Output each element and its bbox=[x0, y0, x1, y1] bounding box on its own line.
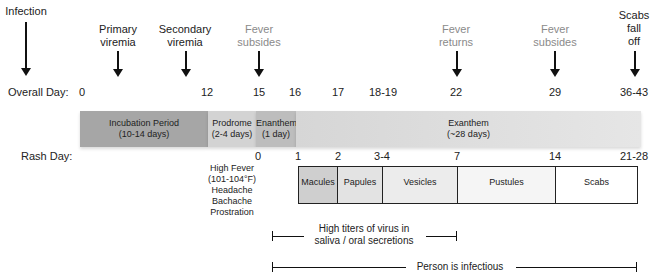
infectious-label: Person is infectious bbox=[417, 261, 504, 273]
event-label: returns bbox=[439, 36, 473, 49]
phase-duration: (1 day) bbox=[256, 129, 296, 140]
event-infection: Infection bbox=[5, 5, 47, 18]
phase-enanthem: Enanthem (1 day) bbox=[256, 111, 296, 147]
event-label: subsides bbox=[237, 36, 280, 49]
rash-day-tick: 1 bbox=[295, 150, 301, 162]
overall-day-label: Overall Day: bbox=[8, 86, 69, 98]
symptom: High Fever bbox=[208, 163, 256, 174]
rash-day-tick: 0 bbox=[255, 150, 261, 162]
event-secondary-viremia: Secondary viremia bbox=[159, 23, 212, 49]
stage-scabs: Scabs bbox=[555, 166, 638, 204]
rash-day-label: Rash Day: bbox=[21, 150, 72, 162]
range-line bbox=[426, 236, 456, 237]
high-titers-label: High titers of virus in saliva / oral se… bbox=[315, 223, 414, 247]
overall-day-tick: 22 bbox=[450, 86, 462, 98]
overall-day-tick: 17 bbox=[332, 86, 344, 98]
event-label: Scabs bbox=[619, 9, 650, 22]
arrow-down-icon bbox=[456, 51, 458, 71]
overall-day-tick: 36-43 bbox=[620, 86, 648, 98]
event-fever-subsides-1: Fever subsides bbox=[237, 23, 280, 49]
symptom: (101-104°F) bbox=[208, 174, 256, 185]
symptom: Bachache bbox=[208, 196, 256, 207]
symptom: Headache bbox=[208, 185, 256, 196]
event-fever-subsides-2: Fever subsides bbox=[533, 23, 576, 49]
arrow-down-icon bbox=[258, 51, 260, 71]
event-label: off bbox=[619, 35, 650, 48]
phase-duration: (2-4 days) bbox=[208, 129, 256, 140]
overall-day-tick: 29 bbox=[549, 86, 561, 98]
overall-day-tick: 15 bbox=[253, 86, 265, 98]
arrow-down-icon bbox=[117, 51, 119, 71]
stage-papules: Papules bbox=[337, 166, 383, 204]
event-label: Fever bbox=[237, 23, 280, 36]
event-label: Primary bbox=[99, 23, 137, 36]
phase-name: Prodrome bbox=[208, 118, 256, 129]
event-label: Infection bbox=[5, 5, 47, 18]
event-label: Secondary bbox=[159, 23, 212, 36]
rash-day-tick: 7 bbox=[454, 150, 460, 162]
symptom: Prostration bbox=[208, 207, 256, 218]
range-line bbox=[272, 236, 304, 237]
event-scabs-fall-off: Scabs fall off bbox=[619, 9, 650, 48]
overall-day-tick: 12 bbox=[201, 86, 213, 98]
rash-day-tick: 14 bbox=[549, 150, 561, 162]
event-fever-returns: Fever returns bbox=[439, 23, 473, 49]
range-end-tick bbox=[636, 262, 637, 272]
event-label: fall bbox=[619, 22, 650, 35]
rash-day-tick: 2 bbox=[335, 150, 341, 162]
phase-exanthem: Exanthem (~28 days) bbox=[296, 111, 641, 147]
overall-day-tick: 16 bbox=[289, 86, 301, 98]
event-label: Fever bbox=[439, 23, 473, 36]
range-line bbox=[272, 267, 406, 268]
arrow-down-icon bbox=[185, 51, 187, 71]
event-label: viremia bbox=[159, 36, 212, 49]
phase-incubation: Incubation Period (10-14 days) bbox=[80, 111, 208, 147]
event-label: subsides bbox=[533, 36, 576, 49]
arrow-down-icon bbox=[554, 51, 556, 71]
overall-day-tick: 18-19 bbox=[369, 86, 397, 98]
stage-vesicles: Vesicles bbox=[382, 166, 458, 204]
range-line bbox=[516, 267, 636, 268]
arrow-down-icon bbox=[25, 22, 27, 70]
rash-day-tick: 3-4 bbox=[374, 150, 390, 162]
range-label-line: saliva / oral secretions bbox=[315, 235, 414, 247]
arrow-down-icon bbox=[634, 51, 636, 71]
stage-pustules: Pustules bbox=[457, 166, 556, 204]
range-end-tick bbox=[456, 231, 457, 241]
phase-duration: (10-14 days) bbox=[80, 129, 208, 140]
phase-name: Incubation Period bbox=[80, 118, 208, 129]
phase-name: Exanthem bbox=[296, 118, 641, 129]
phase-duration: (~28 days) bbox=[296, 129, 641, 140]
prodrome-symptoms: High Fever (101-104°F) Headache Bachache… bbox=[208, 163, 256, 218]
phase-prodrome: Prodrome (2-4 days) bbox=[208, 111, 256, 147]
stage-macules: Macules bbox=[298, 166, 338, 204]
rash-day-tick: 21-28 bbox=[620, 150, 648, 162]
event-primary-viremia: Primary viremia bbox=[99, 23, 137, 49]
event-label: Fever bbox=[533, 23, 576, 36]
overall-day-tick: 0 bbox=[79, 86, 85, 98]
range-label-line: High titers of virus in bbox=[315, 223, 414, 235]
phase-name: Enanthem bbox=[256, 118, 296, 129]
event-label: viremia bbox=[99, 36, 137, 49]
